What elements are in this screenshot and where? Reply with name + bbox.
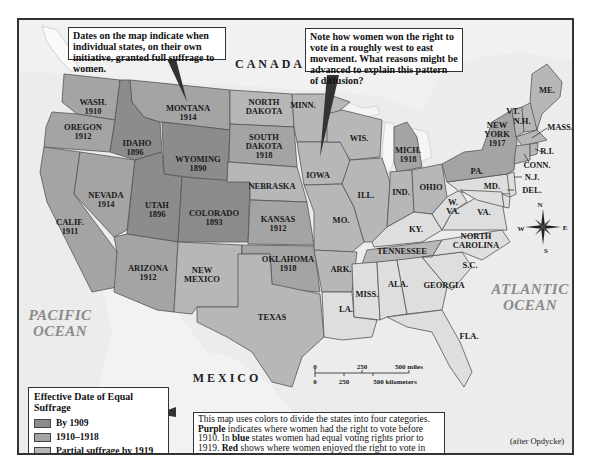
compass-e: E bbox=[563, 224, 568, 232]
state-label-north-dakota-2: DAKOTA bbox=[246, 106, 284, 116]
state-year-idaho: 1896 bbox=[127, 147, 144, 157]
state-year-wyoming: 1890 bbox=[190, 163, 207, 173]
note-red: Red bbox=[222, 443, 238, 453]
state-label-la: LA. bbox=[339, 304, 353, 314]
state-label-wis: WIS. bbox=[350, 133, 369, 143]
label-mexico: MEXICO bbox=[193, 371, 262, 385]
state-label-minn: MINN. bbox=[290, 100, 316, 110]
compass-w: W bbox=[518, 225, 525, 233]
state-label-texas: TEXAS bbox=[258, 312, 287, 322]
legend-item-by-1909: By 1909 bbox=[34, 416, 163, 430]
state-wyoming bbox=[162, 122, 230, 182]
state-label-ri: R.I. bbox=[540, 146, 554, 156]
state-label-ohio: OHIO bbox=[419, 182, 443, 192]
state-label-tenn: TENNESSEE bbox=[377, 246, 427, 256]
state-year-ny: 1917 bbox=[489, 138, 507, 148]
note-blue: blue bbox=[232, 433, 249, 443]
state-label-sc: S.C. bbox=[462, 260, 477, 270]
note-text: This map uses colors to divide the state… bbox=[198, 414, 430, 424]
state-label-fla: FLA. bbox=[459, 331, 478, 341]
legend-swatch bbox=[34, 419, 51, 428]
legend: Effective Date of Equal Suffrage By 1909… bbox=[28, 387, 169, 455]
legend-label: 1910–1918 bbox=[56, 432, 99, 442]
scale-km-250: 250 bbox=[339, 378, 350, 386]
state-year-oregon: 1912 bbox=[75, 131, 92, 141]
state-year-oklahoma: 1918 bbox=[280, 263, 297, 273]
state-year-utah: 1896 bbox=[149, 209, 166, 219]
state-label-ill: ILL. bbox=[358, 190, 375, 200]
legend-swatch bbox=[34, 447, 51, 456]
state-label-mo: MO. bbox=[333, 215, 350, 225]
state-label-pa: PA. bbox=[471, 166, 484, 176]
state-year-wash: 1910 bbox=[85, 106, 102, 116]
scale-miles-500: 500 miles bbox=[395, 363, 423, 371]
state-label-new-mexico-2: MEXICO bbox=[184, 274, 220, 284]
legend-label: By 1909 bbox=[56, 418, 88, 428]
explanation-note: This map uses colors to divide the state… bbox=[193, 412, 445, 455]
source-credit: (after Opdycke) bbox=[510, 436, 564, 446]
state-year-colorado: 1893 bbox=[206, 217, 223, 227]
state-label-nh: N.H. bbox=[514, 116, 531, 126]
state-year-kansas: 1912 bbox=[270, 223, 287, 233]
label-pacific-2: OCEAN bbox=[33, 323, 88, 339]
scale-km-0: 0 bbox=[313, 378, 317, 386]
state-label-md: MD. bbox=[484, 181, 500, 191]
scale-miles-250: 250 bbox=[357, 363, 368, 371]
state-label-wva-2: VA. bbox=[446, 206, 459, 216]
state-label-mass: MASS. bbox=[547, 122, 572, 132]
callout-diffusion: Note how women won the right to vote in … bbox=[305, 28, 463, 72]
compass-s: S bbox=[544, 247, 548, 255]
label-canada: CANADA bbox=[235, 57, 305, 71]
state-label-ind: IND. bbox=[392, 187, 410, 197]
state-label-va: VA. bbox=[477, 207, 490, 217]
label-atlantic-2: OCEAN bbox=[503, 297, 558, 313]
state-year-arizona: 1912 bbox=[140, 272, 157, 282]
state-label-ala: ALA. bbox=[388, 279, 408, 289]
state-label-miss: MISS. bbox=[356, 289, 379, 299]
legend-title: Effective Date of Equal Suffrage bbox=[34, 391, 163, 413]
map-frame: CANADA MEXICO PACIFIC OCEAN ATLANTIC OCE… bbox=[17, 18, 574, 455]
state-label-del: DEL. bbox=[522, 185, 542, 195]
state-label-vt: VT. bbox=[506, 106, 519, 116]
note-green: Green bbox=[316, 452, 341, 455]
state-year-montana: 1914 bbox=[180, 112, 198, 122]
state-year-calif: 1911 bbox=[62, 226, 79, 236]
state-label-me: ME. bbox=[539, 85, 555, 95]
state-year-nevada: 1914 bbox=[98, 199, 116, 209]
state-label-ky: KY. bbox=[409, 224, 423, 234]
state-year-mich: 1918 bbox=[400, 154, 417, 164]
state-label-georgia: GEORGIA bbox=[423, 280, 465, 290]
legend-item-1910-1918: 1910–1918 bbox=[34, 430, 163, 444]
compass-n: N bbox=[537, 201, 542, 209]
state-label-iowa: IOWA bbox=[306, 170, 330, 180]
state-year-south-dakota: 1918 bbox=[256, 150, 273, 160]
state-label-nj: N.J. bbox=[525, 172, 540, 182]
legend-item-partial: Partial suffrage by 1919 bbox=[34, 444, 163, 455]
label-atlantic-1: ATLANTIC bbox=[490, 281, 569, 297]
state-label-nc-2: CAROLINA bbox=[453, 240, 500, 250]
callout-dates: Dates on the map indicate when individua… bbox=[68, 27, 226, 60]
state-label-nebraska: NEBRASKA bbox=[248, 181, 296, 191]
note-purple: Purple bbox=[198, 424, 225, 434]
label-pacific-1: PACIFIC bbox=[28, 307, 92, 323]
scale-km-500: 500 kilometers bbox=[373, 378, 417, 386]
state-label-conn: CONN. bbox=[523, 160, 550, 170]
legend-label: Partial suffrage by 1919 bbox=[56, 446, 153, 455]
state-label-ark: ARK. bbox=[330, 264, 351, 274]
legend-swatch bbox=[34, 433, 51, 442]
